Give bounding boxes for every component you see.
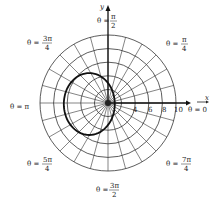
svg-text:π: π bbox=[182, 36, 187, 44]
grid-ray-225deg bbox=[60, 103, 108, 151]
svg-text:4: 4 bbox=[184, 165, 189, 173]
grid-ray-45deg bbox=[108, 55, 156, 103]
tick-label-8: 8 bbox=[162, 106, 166, 114]
svg-text:θ =: θ = bbox=[166, 40, 178, 48]
svg-text:2: 2 bbox=[111, 22, 115, 30]
svg-text:3π: 3π bbox=[43, 35, 52, 43]
pole bbox=[105, 100, 111, 106]
tick-label-10: 10 bbox=[174, 106, 183, 114]
grid-ray-30deg bbox=[108, 69, 167, 103]
label-theta-pi-over-4: θ = π 4 bbox=[166, 36, 188, 53]
svg-text:π: π bbox=[111, 13, 116, 21]
svg-text:2: 2 bbox=[112, 191, 116, 199]
svg-text:θ =: θ = bbox=[27, 160, 39, 168]
label-theta-pi-over-2: θ = π 2 bbox=[97, 13, 117, 30]
x-axis-label: x bbox=[205, 94, 209, 102]
label-theta-5pi-over-4: θ = 5π 4 bbox=[27, 156, 52, 173]
svg-text:4: 4 bbox=[45, 44, 50, 52]
x-axis-arrow-icon bbox=[186, 101, 191, 106]
y-axis-arrow-icon bbox=[106, 5, 111, 11]
label-theta-3pi-over-4: θ = 3π 4 bbox=[27, 35, 52, 52]
y-axis-label: y bbox=[99, 3, 105, 11]
svg-text:θ =: θ = bbox=[166, 160, 178, 168]
polar-graph: y x 4 6 8 10 θ = π 2 θ = π 4 θ = 3π 4 θ … bbox=[0, 0, 214, 201]
svg-text:θ =: θ = bbox=[97, 17, 109, 25]
label-theta-7pi-over-4: θ = 7π 4 bbox=[166, 156, 191, 173]
svg-text:5π: 5π bbox=[43, 156, 52, 164]
tick-label-6: 6 bbox=[148, 106, 153, 114]
tick-label-4: 4 bbox=[133, 106, 138, 114]
svg-text:4: 4 bbox=[45, 165, 50, 173]
svg-text:θ =: θ = bbox=[96, 186, 108, 194]
svg-text:7π: 7π bbox=[182, 156, 191, 164]
grid-ray-135deg bbox=[60, 55, 108, 103]
svg-text:θ =: θ = bbox=[27, 39, 39, 47]
label-theta-3pi-over-2: θ = 3π 2 bbox=[96, 182, 119, 199]
label-theta-pi: θ = π bbox=[10, 103, 30, 111]
grid-ray-150deg bbox=[49, 69, 108, 103]
svg-text:4: 4 bbox=[182, 45, 187, 53]
label-theta-0: θ = 0 bbox=[188, 106, 207, 114]
svg-text:3π: 3π bbox=[110, 182, 119, 190]
